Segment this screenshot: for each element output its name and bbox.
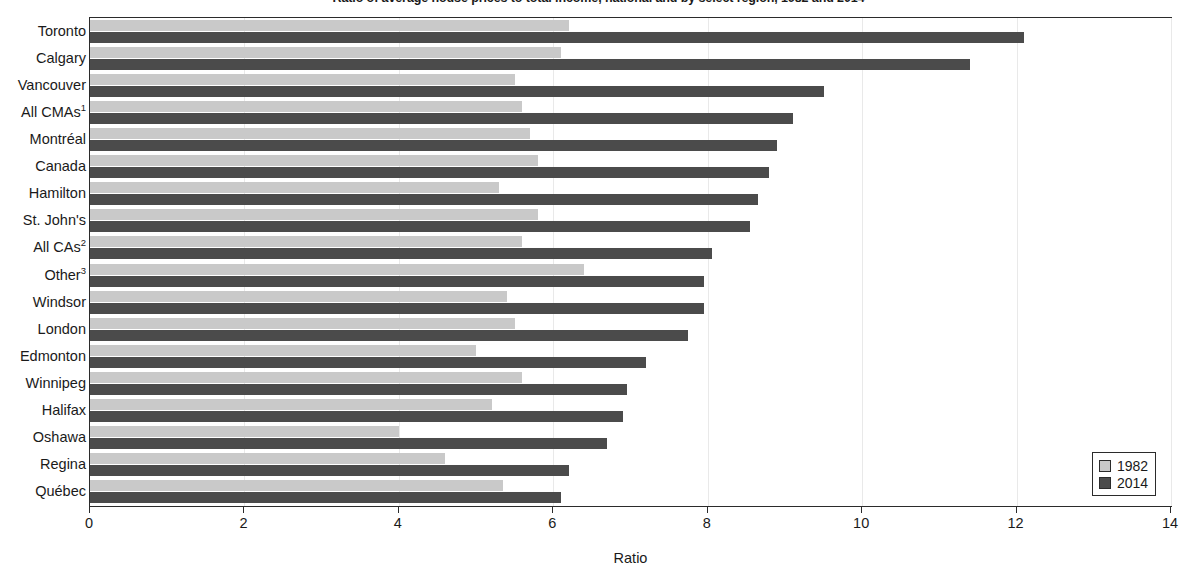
chart-title: Ratio of average house prices to total i… (0, 0, 1197, 5)
bar-1982[interactable] (90, 182, 499, 193)
x-axis-title: Ratio (89, 550, 1172, 566)
bar-2014[interactable] (90, 411, 623, 422)
x-tick-label-14: 14 (1162, 515, 1178, 531)
bar-2014[interactable] (90, 59, 970, 70)
x-tick-mark (552, 507, 553, 513)
legend-item-2014[interactable]: 2014 (1099, 474, 1148, 491)
bar-2014[interactable] (90, 167, 769, 178)
x-tick-mark (243, 507, 244, 513)
x-axis: 02468101214 (89, 507, 1172, 547)
bar-group (90, 479, 1171, 506)
bar-1982[interactable] (90, 480, 503, 491)
y-tick-label-london: London (0, 322, 86, 337)
bar-2014[interactable] (90, 221, 750, 232)
legend-swatch-icon (1099, 460, 1111, 472)
y-tick-label-oshawa: Oshawa (0, 430, 86, 445)
bar-group (90, 343, 1171, 370)
legend-item-1982[interactable]: 1982 (1099, 457, 1148, 474)
bar-2014[interactable] (90, 384, 627, 395)
bar-2014[interactable] (90, 438, 607, 449)
bar-group (90, 289, 1171, 316)
x-tick-label-8: 8 (703, 515, 711, 531)
bar-1982[interactable] (90, 264, 584, 275)
y-tick-label-toronto: Toronto (0, 24, 86, 39)
bar-1982[interactable] (90, 74, 515, 85)
bar-group (90, 262, 1171, 289)
bar-2014[interactable] (90, 357, 646, 368)
bar-1982[interactable] (90, 399, 492, 410)
x-tick-mark (1170, 507, 1171, 513)
bar-2014[interactable] (90, 113, 793, 124)
bar-group (90, 370, 1171, 397)
bar-2014[interactable] (90, 465, 569, 476)
plot-area (89, 17, 1172, 507)
x-tick-label-10: 10 (853, 515, 869, 531)
x-tick-label-2: 2 (239, 515, 247, 531)
bar-group (90, 126, 1171, 153)
x-tick-mark (89, 507, 90, 513)
footnote-marker: 1 (81, 102, 86, 113)
bar-group (90, 235, 1171, 262)
bar-group (90, 398, 1171, 425)
bar-2014[interactable] (90, 248, 712, 259)
x-tick-label-6: 6 (548, 515, 556, 531)
bar-group (90, 425, 1171, 452)
x-tick-label-12: 12 (1007, 515, 1023, 531)
y-tick-label-other: Other3 (0, 268, 86, 283)
y-tick-label-calgary: Calgary (0, 51, 86, 66)
x-tick-mark (707, 507, 708, 513)
bar-2014[interactable] (90, 330, 688, 341)
bar-group (90, 154, 1171, 181)
bar-group (90, 452, 1171, 479)
y-tick-label-vancouver: Vancouver (0, 78, 86, 93)
bar-1982[interactable] (90, 101, 522, 112)
bar-1982[interactable] (90, 453, 445, 464)
bar-2014[interactable] (90, 492, 561, 503)
y-tick-label-qu-bec: Québec (0, 484, 86, 499)
bar-group (90, 316, 1171, 343)
bar-group (90, 208, 1171, 235)
y-tick-label-all-cmas: All CMAs1 (0, 105, 86, 120)
bar-1982[interactable] (90, 155, 538, 166)
x-tick-mark (1016, 507, 1017, 513)
x-tick-label-0: 0 (85, 515, 93, 531)
bar-group (90, 45, 1171, 72)
bar-2014[interactable] (90, 140, 777, 151)
y-tick-label-halifax: Halifax (0, 403, 86, 418)
bar-group (90, 18, 1171, 45)
bar-1982[interactable] (90, 372, 522, 383)
bar-2014[interactable] (90, 32, 1024, 43)
bar-1982[interactable] (90, 318, 515, 329)
legend-swatch-icon (1099, 477, 1111, 489)
bar-1982[interactable] (90, 426, 399, 437)
y-tick-label-canada: Canada (0, 159, 86, 174)
bar-1982[interactable] (90, 345, 476, 356)
bar-1982[interactable] (90, 291, 507, 302)
bar-group (90, 181, 1171, 208)
bar-2014[interactable] (90, 194, 758, 205)
y-tick-label-montr-al: Montréal (0, 132, 86, 147)
legend-label: 2014 (1117, 476, 1148, 490)
y-tick-label-winnipeg: Winnipeg (0, 376, 86, 391)
y-tick-label-regina: Regina (0, 457, 86, 472)
y-axis-label-group: TorontoCalgaryVancouverAll CMAs1Montréal… (0, 17, 86, 507)
legend-label: 1982 (1117, 459, 1148, 473)
bar-group (90, 72, 1171, 99)
bar-1982[interactable] (90, 236, 522, 247)
x-tick-label-4: 4 (394, 515, 402, 531)
x-tick-mark (861, 507, 862, 513)
y-tick-label-st-john-s: St. John's (0, 213, 86, 228)
bar-2014[interactable] (90, 86, 824, 97)
x-tick-mark (398, 507, 399, 513)
bar-2014[interactable] (90, 276, 704, 287)
footnote-marker: 3 (81, 265, 86, 276)
bar-1982[interactable] (90, 128, 530, 139)
bar-group (90, 99, 1171, 126)
bar-1982[interactable] (90, 20, 569, 31)
bar-1982[interactable] (90, 47, 561, 58)
bar-1982[interactable] (90, 209, 538, 220)
chart-legend: 19822014 (1092, 452, 1156, 496)
grid-line (1171, 18, 1172, 506)
bar-2014[interactable] (90, 303, 704, 314)
y-tick-label-hamilton: Hamilton (0, 186, 86, 201)
